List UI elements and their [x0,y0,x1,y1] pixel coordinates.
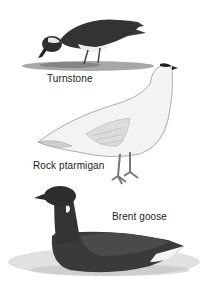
bird-illustration: Turnstone Rock ptarmigan Brent goose [0,0,208,292]
brent-goose-label: Brent goose [112,211,167,223]
brent-goose-illustration [0,0,208,292]
rock-ptarmigan-label: Rock ptarmigan [33,160,104,172]
turnstone-label: Turnstone [47,73,93,85]
